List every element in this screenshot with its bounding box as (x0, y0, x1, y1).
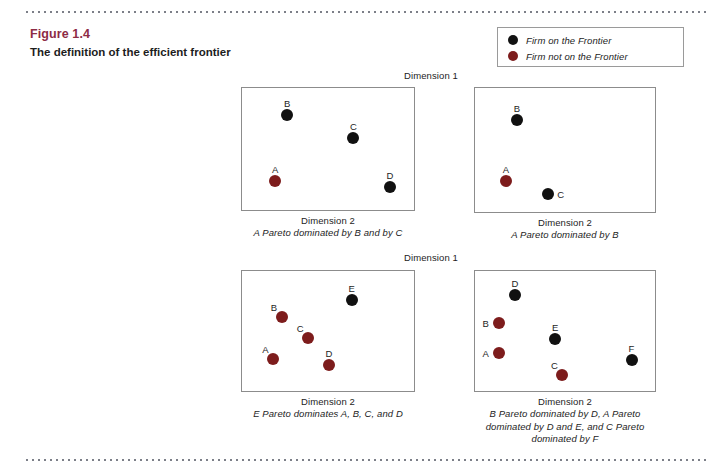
panel-bottom-left-dimension2-label: Dimension 2 (241, 396, 415, 407)
legend: Firm on the Frontier Firm not on the Fro… (497, 27, 684, 67)
figure-number: Figure 1.4 (30, 27, 290, 42)
data-point-label-a: A (262, 343, 268, 354)
data-point-label-d: D (512, 278, 519, 289)
legend-item-not-frontier: Firm not on the Frontier (508, 48, 683, 64)
data-point-label-e: E (348, 283, 354, 294)
data-point-label-a: A (482, 347, 488, 358)
data-point-b (511, 114, 523, 126)
panel-top-right-dimension2-label: Dimension 2 (474, 217, 656, 228)
data-point-label-c: C (551, 359, 558, 370)
data-point-label-a: A (272, 164, 278, 175)
panel-bottom-left-caption: E Pareto dominates A, B, C, and D (241, 408, 415, 421)
panel-bottom-right-dimension2-label: Dimension 2 (474, 396, 656, 407)
panel-bottom-left-plot-area: EBCAD (241, 270, 415, 392)
data-point-e (549, 333, 561, 345)
data-point-c (542, 188, 554, 200)
data-point-label-c: C (297, 323, 304, 334)
data-point-a (269, 175, 281, 187)
data-point-a (493, 347, 505, 359)
data-point-c (556, 369, 568, 381)
data-point-c (347, 132, 359, 144)
data-point-c (302, 332, 314, 344)
data-point-b (493, 317, 505, 329)
data-point-d (323, 359, 335, 371)
legend-item-frontier: Firm on the Frontier (508, 32, 683, 48)
data-point-e (346, 294, 358, 306)
dark-red-dot-icon (508, 51, 518, 61)
data-point-label-b: B (284, 98, 290, 109)
legend-label-frontier: Firm on the Frontier (526, 35, 611, 46)
top-dotted-rule (24, 11, 709, 13)
panel-top-right-caption: A Pareto dominated by B (474, 229, 656, 242)
panel-bottom-right-caption: B Pareto dominated by D, A Pareto domina… (467, 408, 663, 446)
black-dot-icon (508, 35, 518, 45)
panel-top-right-plot-area: BAC (474, 87, 656, 213)
panel-top-left-dimension2-label: Dimension 2 (241, 215, 415, 226)
dimension1-label-top: Dimension 1 (404, 70, 458, 81)
figure-caption: The definition of the efficient frontier (30, 44, 290, 60)
data-point-a (500, 175, 512, 187)
data-point-label-b: B (482, 318, 488, 329)
panel-top-left-plot-area: BCAD (241, 87, 415, 211)
data-point-label-b: B (271, 302, 277, 313)
panel-top-left-caption: A Pareto dominated by B and by C (241, 227, 415, 240)
data-point-label-f: F (629, 343, 635, 354)
data-point-label-a: A (503, 164, 509, 175)
figure-heading: Figure 1.4 The definition of the efficie… (30, 27, 290, 60)
data-point-b (276, 311, 288, 323)
panel-bottom-right-plot-area: DBEAFC (474, 270, 656, 392)
data-point-label-e: E (552, 322, 558, 333)
data-point-label-b: B (514, 102, 520, 113)
data-point-label-d: D (386, 170, 393, 181)
data-point-d (384, 181, 396, 193)
dimension1-label-bottom: Dimension 1 (404, 252, 458, 263)
data-point-label-c: C (557, 188, 564, 199)
panels-container: Dimension 1 Dimension 1 BCADDimension 2A… (0, 0, 721, 476)
data-point-f (626, 354, 638, 366)
data-point-label-d: D (326, 347, 333, 358)
data-point-label-c: C (350, 120, 357, 131)
legend-label-not-frontier: Firm not on the Frontier (526, 51, 628, 62)
data-point-d (509, 289, 521, 301)
data-point-b (281, 109, 293, 121)
bottom-dotted-rule (24, 459, 709, 461)
data-point-a (267, 353, 279, 365)
